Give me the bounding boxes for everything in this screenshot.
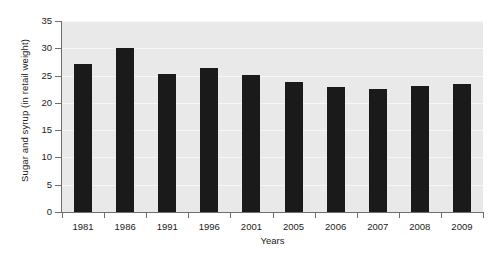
y-tick-mark [55, 76, 61, 77]
x-tick-label: 2009 [441, 221, 483, 232]
x-tick-label: 1986 [104, 221, 146, 232]
x-tick-mark [62, 212, 63, 218]
bar [158, 74, 176, 212]
y-tick-mark [55, 103, 61, 104]
x-tick-label: 1996 [188, 221, 230, 232]
y-tick-mark [55, 157, 61, 158]
y-tick-label: 30 [26, 42, 52, 53]
y-tick-label: 5 [26, 179, 52, 190]
x-tick-mark [188, 212, 189, 218]
gridline [62, 21, 483, 22]
x-tick-mark [273, 212, 274, 218]
y-tick-mark [55, 21, 61, 22]
plot-area [62, 21, 483, 212]
y-tick-label: 15 [26, 124, 52, 135]
x-tick-label: 2005 [273, 221, 315, 232]
y-tick-mark [55, 212, 61, 213]
x-tick-label: 1991 [146, 221, 188, 232]
bar [116, 48, 134, 212]
x-tick-mark [230, 212, 231, 218]
x-tick-mark [146, 212, 147, 218]
bar-chart-figure: Sugar and syrup (in retail weight) 05101… [0, 0, 500, 255]
x-tick-label: 2007 [357, 221, 399, 232]
y-tick-label: 20 [26, 97, 52, 108]
bar [200, 68, 218, 212]
x-tick-mark [357, 212, 358, 218]
x-tick-mark [441, 212, 442, 218]
x-tick-label: 2001 [230, 221, 272, 232]
bar [411, 86, 429, 212]
bar [242, 75, 260, 212]
y-tick-mark [55, 130, 61, 131]
x-tick-mark [483, 212, 484, 218]
bar [74, 64, 92, 212]
bar [327, 87, 345, 212]
y-tick-mark [55, 48, 61, 49]
x-axis-title: Years [62, 235, 483, 246]
y-tick-label: 25 [26, 70, 52, 81]
x-tick-mark [104, 212, 105, 218]
x-tick-mark [315, 212, 316, 218]
x-tick-label: 2008 [399, 221, 441, 232]
bar [453, 84, 471, 212]
x-tick-label: 2006 [315, 221, 357, 232]
y-tick-label: 0 [26, 206, 52, 217]
x-tick-mark [399, 212, 400, 218]
y-tick-label: 35 [26, 15, 52, 26]
y-tick-label: 10 [26, 151, 52, 162]
bar [285, 82, 303, 212]
y-tick-mark [55, 185, 61, 186]
bar [369, 89, 387, 212]
x-tick-label: 1981 [62, 221, 104, 232]
